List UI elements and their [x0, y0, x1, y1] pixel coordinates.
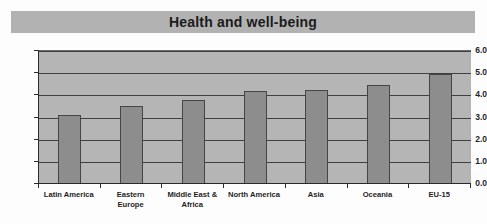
x-tick-label: North America — [228, 190, 280, 200]
x-tick-mark — [223, 184, 224, 188]
chart-title-banner: Health and well-being — [11, 11, 475, 33]
bar — [58, 115, 81, 184]
bar — [182, 100, 205, 184]
chart-figure: Health and well-being 0.01.02.03.04.05.0… — [0, 0, 487, 224]
x-tick-label: Middle East & Africa — [167, 190, 217, 209]
x-tick-label: Latin America — [44, 190, 94, 200]
x-tick-mark — [100, 184, 101, 188]
x-tick-mark — [347, 184, 348, 188]
plot-inner — [39, 51, 471, 184]
gridline — [39, 73, 471, 74]
x-tick-label: Oceania — [363, 190, 393, 200]
bar — [305, 90, 328, 184]
plot-area — [38, 50, 471, 184]
bar — [120, 106, 143, 184]
gridline — [39, 51, 471, 52]
x-tick-label: Eastern Europe — [117, 190, 145, 209]
bar — [244, 91, 267, 184]
y-axis-line — [38, 50, 39, 184]
bar — [367, 85, 390, 184]
x-tick-label: Asia — [308, 190, 324, 200]
bar — [429, 74, 452, 184]
x-tick-mark — [285, 184, 286, 188]
x-tick-mark — [38, 184, 39, 188]
x-tick-label: EU-15 — [428, 190, 450, 200]
x-tick-mark — [408, 184, 409, 188]
x-tick-mark — [161, 184, 162, 188]
x-tick-mark — [470, 184, 471, 188]
chart-title: Health and well-being — [169, 14, 317, 30]
x-axis-line — [38, 183, 471, 184]
